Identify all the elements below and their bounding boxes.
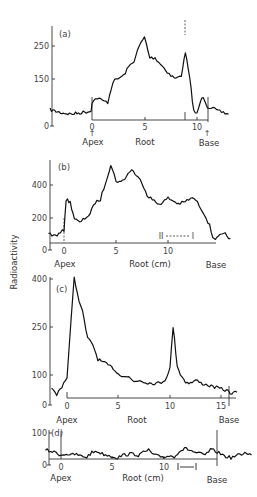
panel-c-label: (c) [56,284,67,294]
panel-b-xtick: 0 [61,247,66,256]
panel-b-trace [48,166,230,240]
panel-c-xlabel: Root [127,415,147,425]
panel-b-xlabel: Root (cm) [129,259,171,269]
panel-b-apex-label: Apex [54,259,75,269]
panel-b-ytick: 400 [32,181,47,190]
panel-c-apex-label: Apex [56,415,77,425]
panel-b-base-label: Base [206,260,227,270]
panel-b-xtick: 10 [163,247,173,256]
base-arrow-icon: ↑ [204,129,211,138]
panel-d-apex-label: Apex [50,473,71,483]
figure-canvas: Radioactivity 250 150 0 (a) 0 5 10 ↑ ↑ A… [0,0,257,497]
panel-c-ytick: 250 [32,323,47,332]
panel-c-xtick: 10 [165,402,175,411]
panel-a-apex-label: Apex [82,137,103,147]
panel-a-trace [50,37,229,115]
panel-d-xtick: 0 [58,463,63,472]
panel-b-label: (b) [58,162,70,172]
panel-a-xtick: 5 [142,123,147,132]
panel-a-xlabel: Root [135,137,155,147]
panel-b-ytick: 200 [32,214,47,223]
panel-d-ytick: 100 [32,429,47,438]
marker-i: I [192,232,194,241]
panel-a-ytick: 250 [34,42,49,51]
panel-d: 100 0 (d) 0 5 10 Apex Root (cm) Base [32,428,252,485]
panel-d-xlabel: Root (cm) [122,473,164,483]
panel-d-ytick: 0 [42,461,47,470]
panel-a: 250 150 0 (a) 0 5 10 ↑ ↑ Apex Root Base [34,20,229,148]
marker-ii: II [159,232,164,241]
panel-d-xtick: 10 [159,463,169,472]
panel-a-xtick: 10 [192,123,202,132]
panel-c-xtick: 5 [115,402,120,411]
panel-a-ytick: 0 [44,122,49,131]
panel-d-base-label: Base [207,475,228,485]
panel-a-ytick: 150 [34,75,49,84]
panel-c: 400 250 100 0 (c) 0 5 10 15 Apex Root Ba… [32,275,240,425]
y-axis-label: Radioactivity [9,234,19,289]
panel-d-xtick: 5 [109,463,114,472]
panel-b-ytick: 0 [42,246,47,255]
panel-a-label: (a) [59,29,71,39]
panel-c-ytick: 400 [32,275,47,284]
panel-c-ytick: 0 [42,401,47,410]
panel-c-trace [52,277,238,396]
panel-c-xtick: 15 [216,402,226,411]
panel-c-ytick: 100 [32,371,47,380]
panel-c-xtick: 0 [64,402,69,411]
panel-b-xtick: 5 [113,247,118,256]
panel-a-base-label: Base [199,138,220,148]
panel-b: 400 200 0 (b) II I 0 5 10 Apex Root (cm)… [32,160,231,270]
panel-d-trace [46,448,252,460]
panel-c-base-label: Base [219,415,240,425]
